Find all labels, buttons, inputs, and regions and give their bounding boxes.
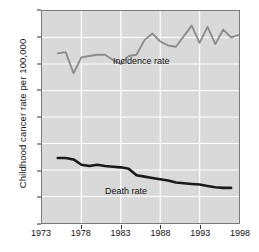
x-tick-mark-1993 [200, 225, 201, 229]
death-rate-label: Death rate [105, 186, 147, 196]
incidence-rate-label: Incidence rate [113, 56, 170, 66]
x-tick-mark-1978 [81, 225, 82, 229]
x-tick-label-1998: 1998 [215, 228, 259, 238]
x-tick-mark-1988 [160, 225, 161, 229]
chart-container: Childhood cancer rate per 100,000 024681… [0, 0, 259, 252]
x-tick-mark-1983 [121, 225, 122, 229]
